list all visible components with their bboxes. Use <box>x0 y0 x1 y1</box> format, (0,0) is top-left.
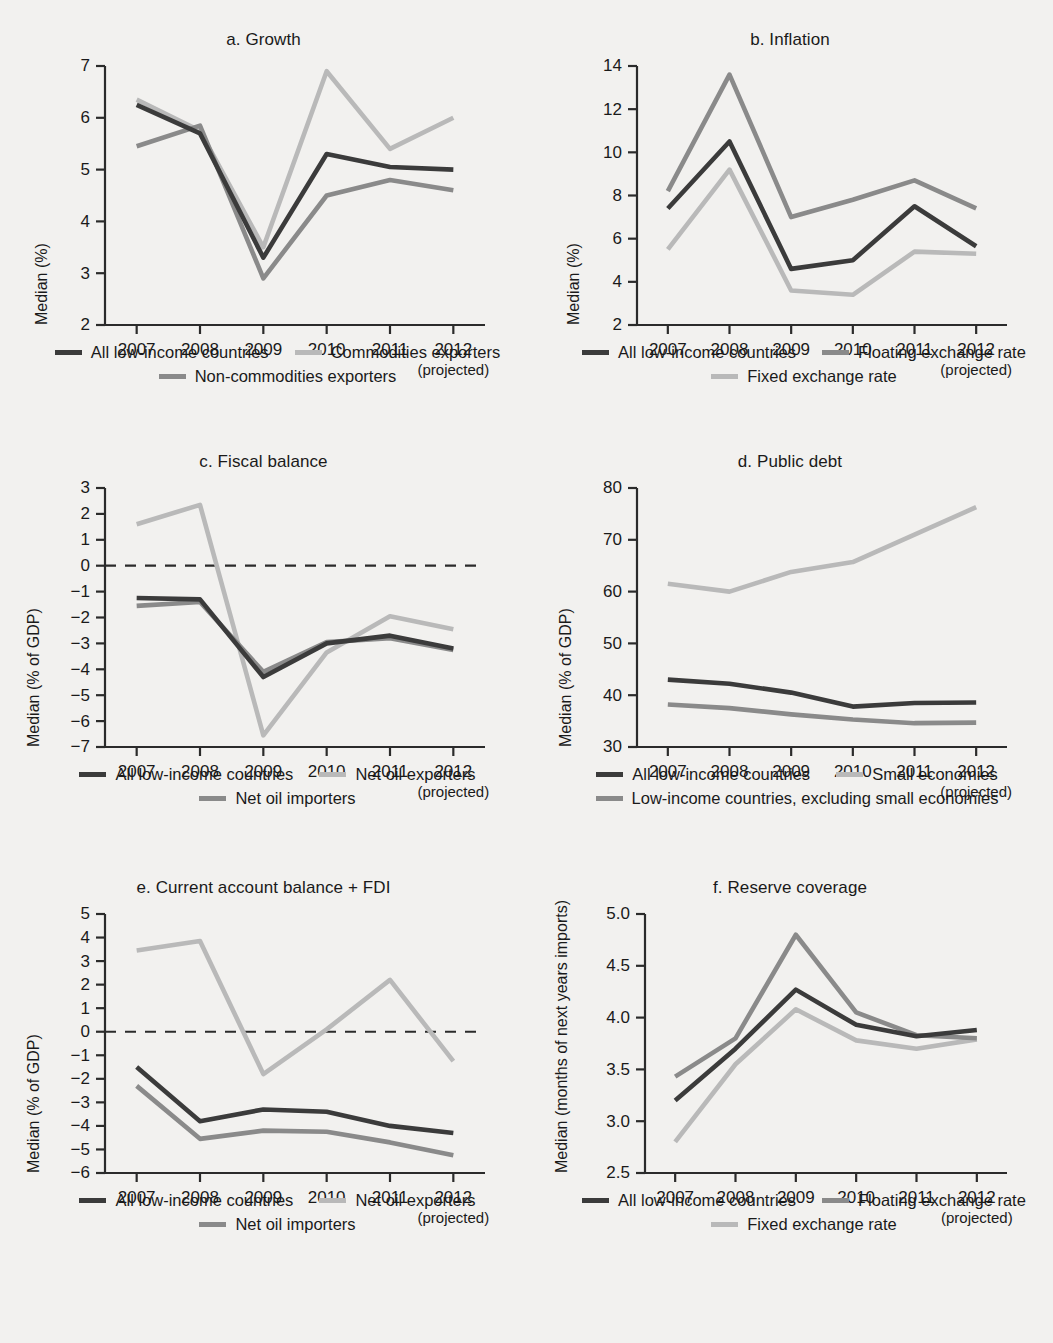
y-tick-label: 6 <box>613 229 622 248</box>
y-tick-label: 3.5 <box>606 1060 630 1079</box>
y-tick-label: −2 <box>71 1069 90 1088</box>
legend-item[interactable]: Net oil exporters <box>319 766 475 783</box>
y-tick-label: 2.5 <box>606 1163 630 1182</box>
chart-panel-c: c. Fiscal balanceMedian (% of GDP)−7−6−5… <box>0 440 527 800</box>
legend-label: Small economies <box>872 766 998 783</box>
legend-swatch-line-icon <box>55 350 82 355</box>
y-tick-label: 4 <box>81 212 90 231</box>
legend-row: Fixed exchange rate <box>527 364 1053 388</box>
legend-item[interactable]: Floating exchange rate <box>822 1192 1026 1209</box>
legend-label: All low-income countries <box>115 1192 293 1209</box>
legend-d: All low-income countriesSmall economiesL… <box>527 762 1053 810</box>
legend-item[interactable]: Net oil importers <box>199 790 355 807</box>
series-line <box>675 1009 977 1142</box>
legend-item[interactable]: All low-income countries <box>55 344 269 361</box>
legend-label: Fixed exchange rate <box>747 1216 897 1233</box>
y-tick-label: 5 <box>81 160 90 179</box>
y-tick-label: 14 <box>603 56 622 75</box>
legend-swatch-line-icon <box>582 350 609 355</box>
y-tick-label: 2 <box>81 975 90 994</box>
legend-label: Commodities exporters <box>331 344 501 361</box>
y-tick-label: 2 <box>613 315 622 334</box>
y-tick-label: 0 <box>81 1022 90 1041</box>
y-tick-label: 4 <box>81 928 90 947</box>
legend-b: All low-income countriesFloating exchang… <box>527 340 1053 388</box>
y-tick-label: 12 <box>603 100 622 119</box>
legend-swatch-line-icon <box>319 1198 346 1203</box>
y-tick-label: 80 <box>603 478 622 497</box>
legend-swatch-line-icon <box>822 1198 849 1203</box>
legend-label: Net oil importers <box>235 1216 355 1233</box>
legend-item[interactable]: Commodities exporters <box>295 344 501 361</box>
legend-swatch-line-icon <box>159 374 186 379</box>
y-tick-label: −3 <box>71 1093 90 1112</box>
legend-row: All low-income countriesFloating exchang… <box>527 1188 1053 1212</box>
y-tick-label: −5 <box>71 1140 90 1159</box>
legend-item[interactable]: All low-income countries <box>79 1192 293 1209</box>
legend-row: Low-income countries, excluding small ec… <box>527 786 1053 810</box>
legend-label: Fixed exchange rate <box>747 368 897 385</box>
legend-row: Net oil importers <box>0 786 527 810</box>
legend-item[interactable]: Floating exchange rate <box>822 344 1026 361</box>
y-tick-label: 1 <box>81 530 90 549</box>
legend-swatch-line-icon <box>199 796 226 801</box>
legend-item[interactable]: All low-income countries <box>596 766 810 783</box>
legend-f: All low-income countriesFloating exchang… <box>527 1188 1053 1236</box>
legend-swatch-line-icon <box>711 1222 738 1227</box>
legend-swatch-line-icon <box>79 1198 106 1203</box>
legend-a: All low-income countriesCommodities expo… <box>0 340 527 388</box>
y-tick-label: −2 <box>71 608 90 627</box>
figure-panel-grid: a. GrowthMedian (%)234567200720082009201… <box>0 0 1053 1343</box>
chart-panel-d: d. Public debtMedian (% of GDP)304050607… <box>527 440 1053 800</box>
legend-row: All low-income countriesSmall economies <box>527 762 1053 786</box>
legend-item[interactable]: All low-income countries <box>582 344 796 361</box>
chart-panel-b: b. InflationMedian (%)246810121420072008… <box>527 22 1053 377</box>
legend-label: All low-income countries <box>632 766 810 783</box>
legend-row: All low-income countriesNet oil exporter… <box>0 762 527 786</box>
legend-swatch-line-icon <box>596 772 623 777</box>
y-tick-label: −1 <box>71 1046 90 1065</box>
y-tick-label: −3 <box>71 634 90 653</box>
legend-item[interactable]: Net oil importers <box>199 1216 355 1233</box>
series-line <box>137 505 454 736</box>
legend-swatch-line-icon <box>822 350 849 355</box>
legend-swatch-line-icon <box>596 796 623 801</box>
series-line <box>668 507 976 591</box>
y-tick-label: 3 <box>81 478 90 497</box>
plot-area-c: −7−6−5−4−3−2−101232007200820092010201120… <box>0 440 527 817</box>
y-tick-label: 5 <box>81 904 90 923</box>
legend-item[interactable]: Net oil exporters <box>319 1192 475 1209</box>
chart-panel-f: f. Reserve coverageMedian (months of nex… <box>527 858 1053 1223</box>
legend-label: Net oil exporters <box>355 1192 475 1209</box>
legend-swatch-line-icon <box>319 772 346 777</box>
y-tick-label: 7 <box>81 56 90 75</box>
y-tick-label: −6 <box>71 1163 90 1182</box>
legend-swatch-line-icon <box>582 1198 609 1203</box>
y-tick-label: 6 <box>81 108 90 127</box>
legend-label: All low-income countries <box>618 1192 796 1209</box>
legend-item[interactable]: Non-commodities exporters <box>159 368 397 385</box>
series-line <box>137 598 454 677</box>
y-tick-label: −6 <box>71 712 90 731</box>
y-tick-label: 5.0 <box>606 904 630 923</box>
legend-item[interactable]: Fixed exchange rate <box>711 1216 897 1233</box>
chart-panel-e: e. Current account balance + FDIMedian (… <box>0 858 527 1223</box>
y-tick-label: 3.0 <box>606 1112 630 1131</box>
legend-item[interactable]: All low-income countries <box>582 1192 796 1209</box>
series-line <box>137 941 454 1074</box>
chart-panel-a: a. GrowthMedian (%)234567200720082009201… <box>0 22 527 377</box>
legend-row: All low-income countriesFloating exchang… <box>527 340 1053 364</box>
y-tick-label: 3 <box>81 952 90 971</box>
legend-label: Low-income countries, excluding small ec… <box>632 790 999 807</box>
y-tick-label: 70 <box>603 530 622 549</box>
axis-lines <box>105 488 485 747</box>
legend-swatch-line-icon <box>295 350 322 355</box>
y-tick-label: 0 <box>81 556 90 575</box>
legend-item[interactable]: Low-income countries, excluding small ec… <box>596 790 999 807</box>
legend-item[interactable]: All low-income countries <box>79 766 293 783</box>
y-tick-label: −4 <box>71 1116 90 1135</box>
legend-item[interactable]: Small economies <box>836 766 998 783</box>
legend-swatch-line-icon <box>199 1222 226 1227</box>
y-tick-label: 2 <box>81 504 90 523</box>
legend-item[interactable]: Fixed exchange rate <box>711 368 897 385</box>
